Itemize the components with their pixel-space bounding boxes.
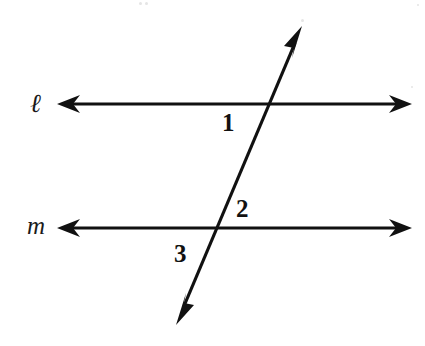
scan-artifact <box>417 4 419 6</box>
transversal-bottom-arrowhead <box>176 293 194 325</box>
transversal-top-arrowhead <box>284 26 302 58</box>
transversal-group <box>176 26 302 325</box>
scan-artifact <box>139 2 142 5</box>
scan-artifact <box>301 19 304 22</box>
geometry-canvas <box>0 0 425 346</box>
geometry-figure: ℓ m 1 2 3 <box>0 0 425 346</box>
line-label-l: ℓ <box>30 90 41 116</box>
line-m-group <box>57 219 412 237</box>
line-l-group <box>57 95 412 113</box>
scan-artifact <box>145 2 148 5</box>
angle-label-3: 3 <box>174 241 187 266</box>
line-label-m: m <box>27 213 45 238</box>
angle-label-2: 2 <box>236 196 249 221</box>
angle-label-1: 1 <box>222 110 235 135</box>
scan-artifact <box>411 86 413 88</box>
transversal-shaft <box>184 43 295 306</box>
